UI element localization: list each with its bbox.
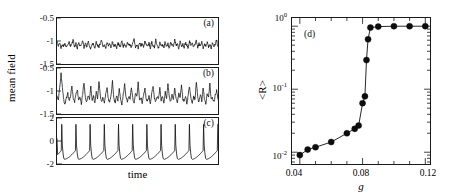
panel-d-x-axis-label: g xyxy=(291,180,431,192)
panel-d-tag: (d) xyxy=(304,29,315,39)
panel-d-scatter-line xyxy=(292,18,430,164)
timeseries-trace-c xyxy=(57,118,218,164)
timeseries-panel-c: (c) xyxy=(56,117,219,165)
panel-d-plot-frame: (d) xyxy=(291,17,431,165)
panel-d-ytick-1e-1: 10-1 xyxy=(251,84,287,93)
panel-c-ytick-mid: 0 xyxy=(20,137,54,146)
left-x-axis-label: time xyxy=(56,168,219,180)
panel-c-ytick-bottom: -2 xyxy=(20,160,54,169)
timeseries-trace-a xyxy=(57,18,218,64)
timeseries-panel-b: (b) xyxy=(56,67,219,115)
panel-b-ytick-mid: -1 xyxy=(20,87,54,96)
right-order-parameter-figure: <R> 100 10-1 10-2 (d) 0.04 0.08 0.12 g xyxy=(245,0,451,195)
figure-root: mean field -0.5 -1 -1.5 -0.5 -1 -1.5 2 0… xyxy=(0,0,451,195)
panel-d-ytick-1e-2: 10-2 xyxy=(251,152,287,161)
panel-d-ytick-1e0-mantissa: 10 xyxy=(275,13,284,23)
left-time-series-figure: mean field -0.5 -1 -1.5 -0.5 -1 -1.5 2 0… xyxy=(0,0,240,195)
panel-d-xtick-008: 0.08 xyxy=(341,168,381,178)
panel-d-xtick-012: 0.12 xyxy=(408,168,448,178)
timeseries-trace-b xyxy=(57,68,218,114)
panel-d-ytick-1e-2-mantissa: 10 xyxy=(273,151,282,161)
panel-d-ytick-1e0-exponent: 0 xyxy=(284,11,287,18)
panel-d-ytick-1e-1-exponent: -1 xyxy=(282,81,287,88)
panel-d-ytick-1e-2-exponent: -2 xyxy=(282,149,287,156)
left-y-axis-label: mean field xyxy=(5,46,17,110)
panel-c-ytick-top: 2 xyxy=(20,114,54,123)
panel-b-ytick-top: -0.5 xyxy=(20,64,54,73)
panel-a-ytick-mid: -1 xyxy=(20,37,54,46)
panel-d-xtick-004: 0.04 xyxy=(274,168,314,178)
panel-d-ytick-1e-1-mantissa: 10 xyxy=(273,83,282,93)
panel-c-tag: (c) xyxy=(203,118,214,129)
panel-d-ytick-1e0: 100 xyxy=(251,14,287,23)
panel-a-ytick-top: -0.5 xyxy=(20,14,54,23)
panel-a-tag: (a) xyxy=(203,18,214,29)
panel-b-tag: (b) xyxy=(203,68,214,79)
timeseries-panel-a: (a) xyxy=(56,17,219,65)
